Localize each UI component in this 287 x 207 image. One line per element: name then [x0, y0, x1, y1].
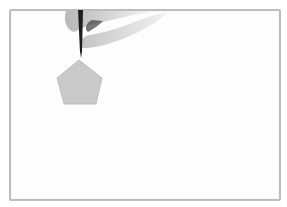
pentagon-shape	[57, 60, 102, 104]
drawing-layer	[0, 0, 287, 207]
illustration-scene	[0, 0, 287, 207]
marker-icon	[78, 10, 83, 58]
